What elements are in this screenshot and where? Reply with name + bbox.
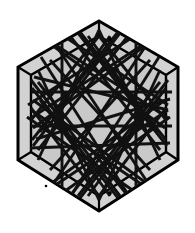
bevel-dot-bottom [108, 191, 112, 195]
hexagon-string-art-figure [0, 0, 195, 233]
bevel-dot-lower-left [45, 185, 48, 188]
figure-canvas [0, 0, 195, 233]
bevel-dot-top [108, 37, 112, 41]
